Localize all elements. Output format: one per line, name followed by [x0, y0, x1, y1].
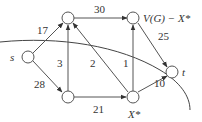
edge-label-s-a: 17	[37, 24, 49, 36]
flow-network-diagram: s V(G) − X* X* t 17 28 30 3 2 1 21 25 10	[0, 0, 202, 122]
node-a	[62, 12, 74, 24]
edge-label-x-a: 2	[90, 57, 96, 69]
edge-label-c-x: 21	[93, 103, 104, 115]
node-b	[127, 12, 139, 24]
edge-label-c-a: 3	[57, 57, 63, 69]
node-label-s: s	[10, 51, 14, 63]
edge-label-b-t: 25	[158, 30, 170, 42]
node-label-b: V(G) − X*	[143, 12, 191, 25]
edge-label-x-t: 10	[154, 77, 166, 89]
node-s	[22, 51, 34, 63]
edge-label-a-b: 30	[94, 3, 106, 15]
edge-label-x-b: 1	[123, 57, 129, 69]
node-c	[62, 91, 74, 103]
node-t	[166, 66, 178, 78]
node-x	[127, 91, 139, 103]
node-label-x: X*	[127, 108, 141, 120]
edge-label-s-c: 28	[34, 78, 46, 90]
edge-x-a	[73, 23, 128, 92]
node-label-t: t	[182, 66, 186, 78]
